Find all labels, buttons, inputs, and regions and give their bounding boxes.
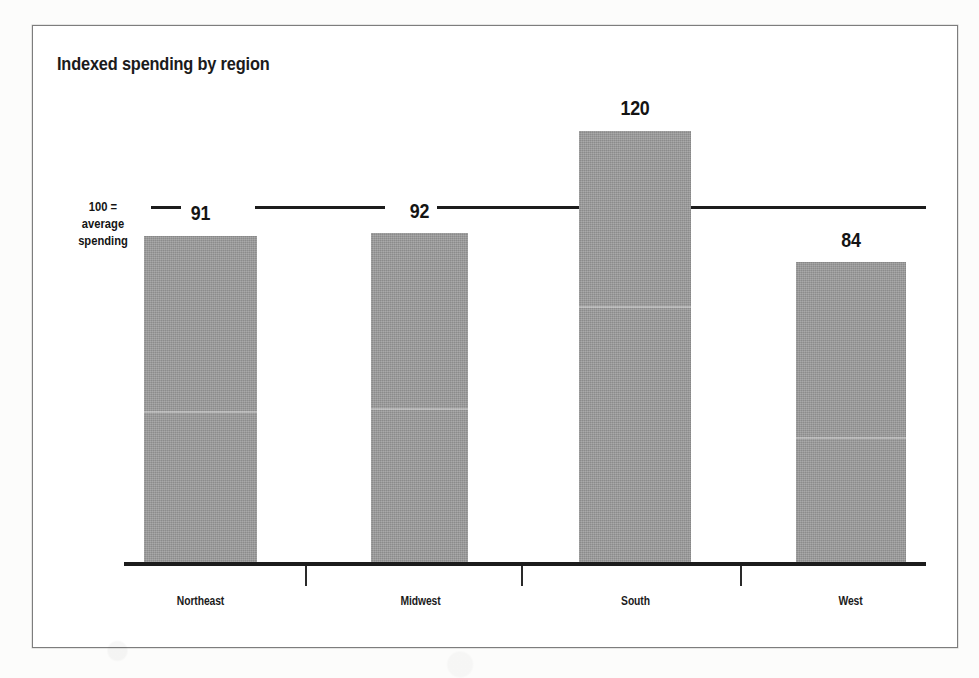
reference-line-annotation: 100 = average spending bbox=[65, 198, 141, 249]
bar-value-midwest: 92 bbox=[378, 199, 460, 223]
plot-area: 100 = average spending 91 92 120 84 bbox=[33, 26, 957, 647]
axis-tick-2 bbox=[521, 566, 523, 586]
axis-baseline bbox=[124, 562, 926, 566]
reference-line-segment bbox=[255, 206, 385, 209]
category-label-west: West bbox=[797, 594, 905, 608]
reference-line-label-spending: spending bbox=[65, 232, 141, 249]
bar-south[interactable] bbox=[579, 131, 691, 562]
bar-value-south: 120 bbox=[587, 96, 682, 120]
axis-tick-3 bbox=[740, 566, 742, 586]
category-label-northeast: Northeast bbox=[147, 594, 255, 608]
page-background: Indexed spending by region 100 = average… bbox=[0, 0, 979, 678]
axis-tick-1 bbox=[305, 566, 307, 586]
chart-frame: Indexed spending by region 100 = average… bbox=[32, 25, 958, 648]
bar-value-northeast: 91 bbox=[152, 201, 248, 225]
reference-line-label-average: average bbox=[65, 215, 141, 232]
bar-west[interactable] bbox=[796, 262, 906, 562]
bar-northeast[interactable] bbox=[144, 236, 257, 562]
bar-value-west: 84 bbox=[804, 228, 898, 252]
bar-midwest[interactable] bbox=[371, 233, 468, 562]
category-label-midwest: Midwest bbox=[367, 594, 475, 608]
category-label-south: South bbox=[582, 594, 690, 608]
reference-line-label-value: 100 = bbox=[65, 198, 141, 215]
